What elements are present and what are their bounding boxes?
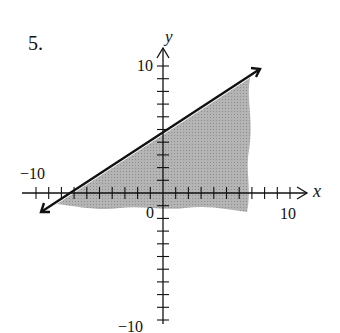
x-axis-label: x bbox=[313, 182, 321, 200]
graph-canvas bbox=[0, 0, 340, 333]
shaded-region bbox=[57, 78, 251, 212]
y-axis-label: y bbox=[165, 28, 173, 45]
x-min-label: −10 bbox=[20, 166, 45, 182]
problem-number: 5. bbox=[28, 33, 43, 53]
y-max-label: 10 bbox=[137, 58, 153, 74]
x-max-label: 10 bbox=[280, 206, 296, 222]
origin-label: 0 bbox=[146, 205, 154, 221]
y-min-label: −10 bbox=[118, 319, 143, 333]
